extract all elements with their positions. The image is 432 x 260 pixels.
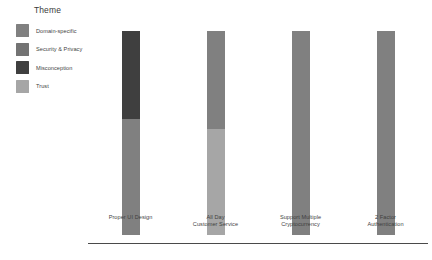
category-label: Support MultipleCryptocurrency [258, 214, 343, 229]
bar-slot [88, 31, 173, 235]
category-label: All DayCustomer Service [173, 214, 258, 229]
legend-swatch-icon [16, 61, 29, 74]
legend-swatch-icon [16, 24, 29, 37]
stacked-bar[interactable] [207, 31, 225, 235]
bar-segment[interactable] [122, 31, 140, 119]
legend-title: Theme [34, 5, 111, 15]
bar-slot [258, 31, 343, 235]
bar-segment[interactable] [207, 31, 225, 129]
category-label-line: Authentication [343, 221, 428, 228]
category-label: 2 FactorAuthentication [343, 214, 428, 229]
bar-slot [173, 31, 258, 235]
plot-area [88, 31, 428, 235]
category-label-line: All Day [173, 214, 258, 221]
legend-item-label: Domain-specific [36, 27, 77, 35]
legend-swatch-icon [16, 43, 29, 56]
category-label-line: Proper UI Design [88, 214, 173, 221]
legend-item-label: Trust [36, 82, 49, 90]
legend-item-label: Security & Privacy [36, 45, 82, 53]
category-label-line: Customer Service [173, 221, 258, 228]
category-label: Proper UI Design [88, 214, 173, 221]
bar-segment[interactable] [292, 31, 310, 235]
category-label-line: Support Multiple [258, 214, 343, 221]
bar-segment[interactable] [377, 31, 395, 235]
stacked-bar[interactable] [122, 31, 140, 235]
legend-item-label: Misconception [36, 64, 72, 72]
stacked-bar-chart: Theme Domain-specificSecurity & PrivacyM… [0, 0, 432, 260]
stacked-bar[interactable] [377, 31, 395, 235]
bar-slot [343, 31, 428, 235]
category-label-line: 2 Factor [343, 214, 428, 221]
stacked-bar[interactable] [292, 31, 310, 235]
legend-swatch-icon [16, 80, 29, 93]
x-axis-line [88, 243, 428, 244]
category-label-line: Cryptocurrency [258, 221, 343, 228]
